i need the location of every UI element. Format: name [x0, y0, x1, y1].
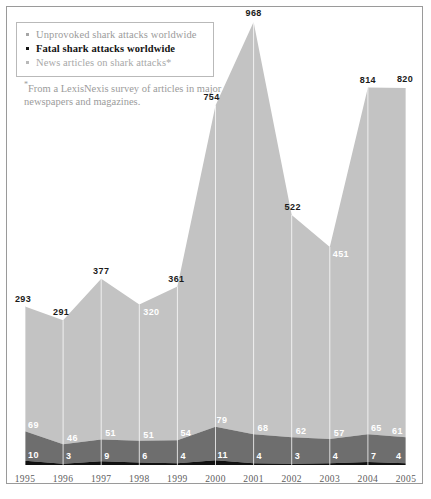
value-label-fatal-1996: 3 [66, 451, 71, 461]
legend-bullet-icon [26, 47, 29, 50]
year-label-1996: 1996 [53, 474, 74, 484]
value-label-fatal-2000: 11 [218, 450, 228, 460]
value-label-fatal-2004: 7 [371, 451, 376, 461]
value-label-news-1996: 291 [53, 307, 69, 317]
year-label-1997: 1997 [91, 474, 112, 484]
value-label-news-1999: 361 [168, 274, 184, 284]
value-label-unprovoked-1998: 51 [143, 430, 154, 440]
chart-footnote: *From a LexisNexis survey of articles in… [24, 80, 224, 108]
legend-item-fatal[interactable]: Fatal shark attacks worldwide [24, 43, 206, 55]
year-label-2005: 2005 [396, 474, 417, 484]
legend-label-unprovoked: Unprovoked shark attacks worldwide [36, 29, 197, 41]
value-label-fatal-1998: 6 [142, 451, 147, 461]
value-label-unprovoked-2000: 79 [217, 415, 228, 425]
value-label-news-2000: 754 [203, 92, 219, 102]
value-label-news-2002: 522 [285, 202, 301, 212]
value-label-unprovoked-2004: 65 [371, 423, 382, 433]
value-label-unprovoked-1997: 51 [105, 428, 116, 438]
year-label-2003: 2003 [319, 474, 340, 484]
value-label-news-2003: 451 [333, 249, 349, 259]
legend-label-news: News articles on shark attacks* [36, 57, 171, 69]
legend-label-fatal: Fatal shark attacks worldwide [36, 43, 175, 55]
value-label-fatal-1999: 4 [180, 451, 185, 461]
legend-bullet-icon [26, 33, 29, 36]
value-label-fatal-1997: 9 [104, 451, 109, 461]
year-label-2000: 2000 [205, 474, 226, 484]
year-label-1999: 1999 [167, 474, 188, 484]
value-label-unprovoked-1999: 54 [180, 428, 191, 438]
year-label-2002: 2002 [281, 474, 302, 484]
value-label-news-1995: 293 [15, 294, 31, 304]
footnote-text: From a LexisNexis survey of articles in … [24, 83, 221, 107]
legend-item-unprovoked[interactable]: Unprovoked shark attacks worldwide [24, 29, 206, 41]
value-label-fatal-2001: 4 [257, 451, 262, 461]
chart-legend: Unprovoked shark attacks worldwide Fatal… [16, 22, 214, 77]
year-label-2004: 2004 [358, 474, 379, 484]
legend-item-news[interactable]: News articles on shark attacks* [24, 57, 206, 69]
year-label-1995: 1995 [15, 474, 36, 484]
value-label-news-1997: 377 [93, 266, 109, 276]
value-label-news-2004: 814 [360, 75, 376, 85]
value-label-news-2001: 968 [245, 8, 261, 18]
value-label-unprovoked-1995: 69 [28, 420, 39, 430]
value-label-unprovoked-2005: 61 [392, 426, 403, 436]
value-label-news-2005: 820 [397, 74, 413, 84]
value-label-fatal-2002: 3 [295, 451, 300, 461]
value-label-news-1998: 320 [143, 307, 159, 317]
value-label-unprovoked-2002: 62 [296, 426, 307, 436]
value-label-fatal-2005: 4 [396, 451, 401, 461]
value-label-unprovoked-2001: 68 [258, 423, 269, 433]
legend-bullet-icon [26, 61, 29, 64]
value-label-fatal-1995: 10 [28, 450, 39, 460]
year-label-1998: 1998 [129, 474, 150, 484]
year-label-2001: 2001 [243, 474, 264, 484]
value-label-unprovoked-1996: 46 [67, 433, 78, 443]
value-label-fatal-2003: 4 [333, 451, 338, 461]
value-label-unprovoked-2003: 57 [334, 428, 345, 438]
